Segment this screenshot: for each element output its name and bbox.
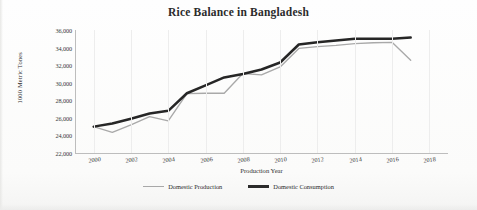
- x-tick-2010: 2010: [274, 155, 287, 164]
- legend-item-production[interactable]: Domestic Production: [143, 183, 222, 190]
- legend-label: Domestic Consumption: [273, 183, 334, 190]
- legend-item-consumption[interactable]: Domestic Consumption: [248, 183, 334, 190]
- scan-edge-bottom: [0, 204, 477, 210]
- x-tick-2004: 2004: [162, 155, 175, 164]
- x-tick-2012: 2012: [311, 155, 324, 164]
- y-tick-26,000: 26,000: [38, 114, 72, 121]
- gridline-vertical-2006: [206, 30, 207, 153]
- x-tick-2008: 2008: [237, 155, 250, 164]
- gridline-vertical-2012: [317, 30, 318, 153]
- gridline-vertical-2000: [94, 30, 95, 153]
- y-tick-28,000: 28,000: [38, 97, 72, 104]
- y-axis-tick-labels: 36,00034,00032,00030,00028,00026,00024,0…: [36, 30, 72, 153]
- y-tick-34,000: 34,000: [38, 44, 72, 51]
- y-tick-24,000: 24,000: [38, 132, 72, 139]
- x-tick-2006: 2006: [199, 155, 212, 164]
- gridline-vertical-2002: [131, 30, 132, 153]
- plot-area: [75, 30, 448, 153]
- y-axis-title: 1000 Metric Tones: [16, 52, 23, 103]
- y-tick-30,000: 30,000: [38, 79, 72, 86]
- series-line-domestic-consumption: [94, 37, 411, 126]
- x-axis-title: Production Year: [75, 167, 448, 174]
- gridline-vertical-2008: [243, 30, 244, 153]
- chart-title: Rice Balance in Bangladesh: [0, 6, 477, 18]
- y-tick-32,000: 32,000: [38, 62, 72, 69]
- legend-swatch-consumption-icon: [248, 185, 269, 188]
- legend-swatch-production-icon: [143, 186, 164, 187]
- x-tick-2018: 2018: [423, 155, 436, 164]
- x-tick-2002: 2002: [125, 155, 138, 164]
- series-line-domestic-production: [94, 42, 411, 132]
- y-tick-36,000: 36,000: [38, 27, 72, 34]
- gridline-vertical-2018: [429, 30, 430, 153]
- gridline-vertical-2010: [280, 30, 281, 153]
- x-axis-line: [75, 153, 448, 154]
- legend-label: Domestic Production: [168, 183, 222, 190]
- scan-edge-left: [0, 0, 3, 210]
- chart-figure: Rice Balance in Bangladesh 1000 Metric T…: [0, 0, 477, 210]
- gridline-vertical-2014: [355, 30, 356, 153]
- y-tick-22,000: 22,000: [38, 150, 72, 157]
- x-tick-2016: 2016: [386, 155, 399, 164]
- chart-legend: Domestic ProductionDomestic Consumption: [0, 183, 477, 190]
- x-tick-2000: 2000: [88, 155, 101, 164]
- gridline-vertical-2004: [168, 30, 169, 153]
- x-tick-2014: 2014: [349, 155, 362, 164]
- gridline-vertical-2016: [392, 30, 393, 153]
